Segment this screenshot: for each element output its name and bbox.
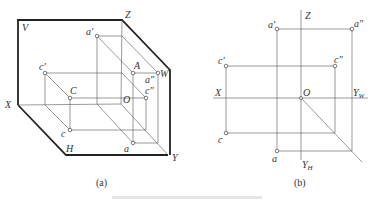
label-c-prime: c' <box>39 61 46 72</box>
label-Z: Z <box>305 10 311 21</box>
point-c <box>68 128 72 132</box>
z-axis <box>121 20 122 104</box>
label-c: c <box>218 134 223 145</box>
label-c-dprime: c" <box>334 54 343 65</box>
label-Y: Y <box>172 152 179 163</box>
label-O: O <box>123 94 130 105</box>
caption-a: (a) <box>96 177 107 189</box>
point-c <box>224 131 228 135</box>
label-X: X <box>4 99 12 110</box>
label-Z: Z <box>125 9 131 20</box>
point-a-prime <box>95 34 99 38</box>
point-c-prime <box>224 64 228 68</box>
point-C <box>68 96 72 100</box>
label-C: C <box>70 85 77 96</box>
faint-figure-caption <box>112 196 262 199</box>
point-A <box>131 71 135 75</box>
label-c: c <box>61 128 66 139</box>
caption-b: (b) <box>294 177 306 189</box>
label-O: O <box>303 87 310 98</box>
label-YH: YH <box>302 159 314 172</box>
label-c-dprime: c" <box>145 85 154 96</box>
x-axis <box>18 104 121 105</box>
label-a-dprime: a" <box>354 18 364 29</box>
label-H: H <box>65 143 74 154</box>
label-A: A <box>133 60 141 71</box>
figure-a: V Z X Y H W O a' A a" c' C c" c a (a) <box>4 9 179 189</box>
figure-b: Z X O YW YH a' a" c' c" c a (b) <box>213 10 368 189</box>
label-c-prime: c' <box>218 55 225 66</box>
label-a-dprime: a" <box>145 74 155 85</box>
label-a-prime: a' <box>268 19 276 30</box>
point-c-dprime <box>144 96 148 100</box>
point-a-prime <box>275 27 279 31</box>
label-a: a <box>124 143 129 154</box>
label-V: V <box>22 22 30 33</box>
45-degree-line <box>301 98 362 162</box>
label-X: X <box>214 87 222 98</box>
point-a <box>131 141 135 145</box>
label-a: a <box>272 153 277 164</box>
label-a-prime: a' <box>86 26 94 37</box>
projection-diagram: V Z X Y H W O a' A a" c' C c" c a (a) <box>0 0 374 205</box>
